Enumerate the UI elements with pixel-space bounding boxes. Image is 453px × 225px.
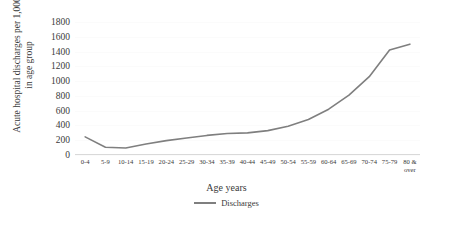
y-axis-tick-label: 1000 [36, 76, 70, 86]
y-axis-tick-label: 200 [36, 135, 70, 145]
y-axis-tick-label: 1400 [36, 47, 70, 57]
y-axis-tick-label: 1800 [36, 17, 70, 27]
y-axis-title-line-1: Acute hospital discharges per 1,000 [11, 0, 23, 145]
y-axis-tick-label: 800 [36, 91, 70, 101]
line-chart: Acute hospital discharges per 1,000 in a… [0, 0, 453, 225]
y-axis-tick-label: 400 [36, 120, 70, 130]
series-line-discharges [85, 44, 410, 148]
x-axis-tick-label: 80 & over [398, 158, 422, 173]
y-axis-tick-label: 1200 [36, 61, 70, 71]
y-axis-tick-label: 1600 [36, 32, 70, 42]
x-axis-tick-labels: 0-45-910-1415-1920-2425-2930-3435-3940-4… [75, 158, 420, 184]
y-axis-tick-label: 600 [36, 106, 70, 116]
legend-swatch-discharges [194, 202, 216, 204]
legend-label-discharges: Discharges [221, 198, 259, 208]
y-axis-tick-label: 0 [36, 150, 70, 160]
series-discharges [75, 22, 420, 155]
y-axis-tick-labels: 020040060080010001200140016001800 [36, 22, 70, 155]
plot-area [75, 22, 420, 155]
gridline [75, 155, 420, 156]
y-axis-title-line-2: in age group [23, 0, 35, 145]
chart-legend: Discharges [0, 198, 453, 208]
x-axis-title: Age years [0, 182, 453, 193]
